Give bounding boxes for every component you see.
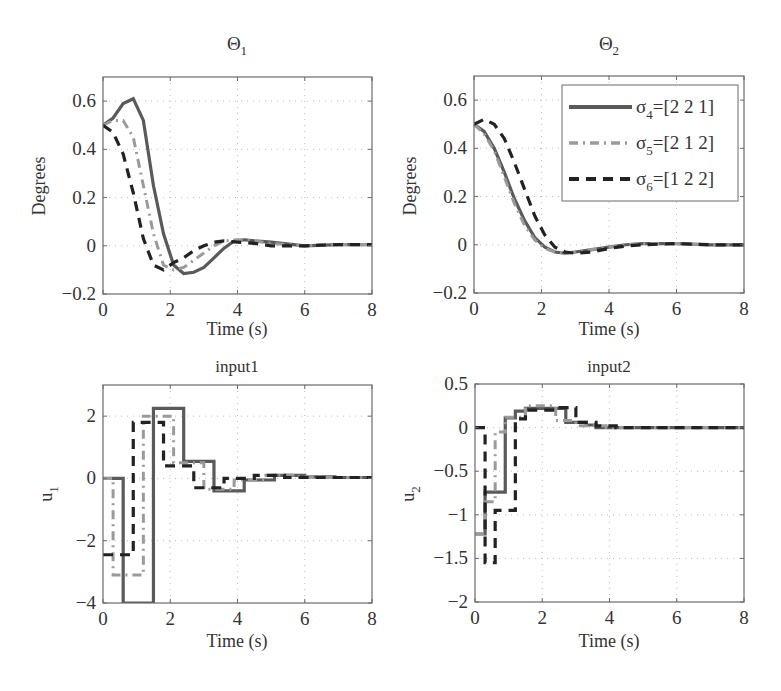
figure: Θ1 Degrees Time (s) 02468−0.200.20.40.6 … — [0, 0, 781, 691]
x-axis-label: Time (s) — [207, 631, 268, 652]
y-tick-label: 2 — [87, 405, 97, 426]
y-tick-label: 0.2 — [443, 186, 467, 207]
x-tick-label: 2 — [166, 608, 176, 629]
x-tick-label: 0 — [469, 298, 479, 319]
x-tick-label: 6 — [672, 298, 682, 319]
y-tick-label: −0.5 — [434, 460, 468, 481]
y-tick-label: −0.2 — [433, 282, 467, 303]
y-axis-label: Degrees — [29, 157, 49, 216]
y-tick-label: 0.4 — [72, 138, 96, 159]
y-tick-label: 0.4 — [443, 137, 467, 158]
subplot-input2: input2 u2 Time (s) 02468−2−1.5−1−0.500.5 — [398, 357, 749, 652]
y-tick-label: 0 — [87, 467, 97, 488]
x-tick-label: 8 — [367, 299, 377, 320]
x-axis-label: Time (s) — [579, 631, 640, 652]
y-tick-label: −1.5 — [434, 547, 468, 568]
y-tick-label: 0 — [459, 417, 469, 438]
x-tick-label: 2 — [166, 299, 176, 320]
x-tick-label: 0 — [470, 607, 480, 628]
x-tick-label: 6 — [300, 299, 310, 320]
subplot-title: input2 — [587, 357, 630, 376]
x-tick-label: 4 — [233, 299, 243, 320]
x-tick-label: 6 — [300, 608, 310, 629]
y-tick-label: −1 — [448, 504, 468, 525]
x-tick-label: 6 — [672, 607, 682, 628]
y-tick-label: 0.5 — [444, 373, 468, 394]
y-tick-label: −0.2 — [62, 283, 96, 304]
y-axis-label: u1 — [36, 486, 61, 502]
y-tick-label: 0 — [87, 235, 97, 256]
y-tick-label: 0.2 — [72, 187, 96, 208]
y-axis-label: u2 — [398, 486, 423, 502]
subplot-title: Θ2 — [599, 33, 619, 58]
legend: σ4=[2 2 1] σ5=[2 1 2] σ6=[1 2 2] — [562, 85, 738, 201]
x-tick-label: 8 — [739, 298, 749, 319]
x-axis-label: Time (s) — [579, 319, 640, 340]
x-tick-label: 2 — [537, 298, 547, 319]
y-tick-label: −2 — [76, 530, 96, 551]
x-tick-label: 0 — [98, 608, 108, 629]
x-axis-label: Time (s) — [207, 319, 268, 340]
x-tick-label: 4 — [604, 298, 614, 319]
y-tick-label: 0.6 — [443, 89, 467, 110]
y-tick-label: 0.6 — [72, 90, 96, 111]
subplot-theta1: Θ1 Degrees Time (s) 02468−0.200.20.40.6 — [29, 33, 377, 340]
x-tick-label: 8 — [367, 608, 377, 629]
y-tick-label: −4 — [76, 592, 97, 613]
subplot-title: input1 — [215, 357, 258, 376]
x-tick-label: 2 — [538, 607, 548, 628]
x-tick-label: 0 — [98, 299, 108, 320]
subplot-input1: input1 u1 Time (s) 02468−4−202 — [36, 357, 377, 652]
x-tick-label: 8 — [739, 607, 749, 628]
y-axis-label: Degrees — [400, 157, 420, 216]
subplot-title: Θ1 — [227, 33, 247, 58]
x-tick-label: 4 — [233, 608, 243, 629]
figure-canvas: Θ1 Degrees Time (s) 02468−0.200.20.40.6 … — [0, 0, 781, 691]
y-tick-label: −2 — [448, 591, 468, 612]
y-tick-label: 0 — [458, 234, 468, 255]
x-tick-label: 4 — [605, 607, 615, 628]
